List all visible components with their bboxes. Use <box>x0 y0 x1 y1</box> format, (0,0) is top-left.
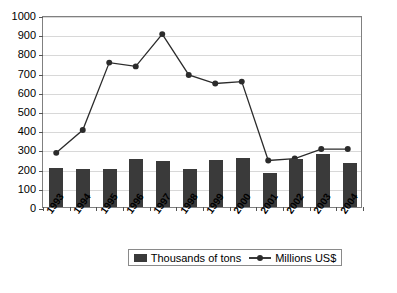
legend-label-usd: Millions US$ <box>275 252 336 264</box>
line-data-point <box>265 157 271 163</box>
line-data-point <box>159 31 165 37</box>
legend-label-tons: Thousands of tons <box>151 252 242 264</box>
line-data-point <box>133 63 139 69</box>
line-data-point <box>186 72 192 78</box>
legend-entry-usd: Millions US$ <box>249 252 336 264</box>
legend-entry-tons: Thousands of tons <box>134 252 242 264</box>
line-data-point <box>239 79 245 85</box>
line-series-overlay <box>43 17 361 207</box>
y-axis-tick-label: 500 <box>18 107 36 118</box>
y-axis-tick-label: 900 <box>18 30 36 41</box>
line-marker-swatch-icon <box>249 254 271 262</box>
line-data-point <box>106 60 112 66</box>
line-data-point <box>318 146 324 152</box>
chart-container: 10009008007006005004003002001000 1993199… <box>0 0 397 293</box>
y-axis-tick-label: 100 <box>18 183 36 194</box>
y-axis-tick-label: 0 <box>30 203 36 214</box>
y-axis-tick-label: 800 <box>18 49 36 60</box>
line-data-point <box>212 81 218 87</box>
bar-swatch-icon <box>134 254 147 262</box>
line-data-point <box>345 146 351 152</box>
y-axis-tick-label: 200 <box>18 164 36 175</box>
y-axis-labels: 10009008007006005004003002001000 <box>0 16 38 208</box>
chart-legend: Thousands of tons Millions US$ <box>128 249 342 266</box>
plot-area <box>43 17 361 207</box>
line-data-point <box>53 150 59 156</box>
y-axis-tick-label: 600 <box>18 87 36 98</box>
y-axis-tick-label: 700 <box>18 68 36 79</box>
y-axis-tick-label: 1000 <box>12 11 36 22</box>
x-axis-tick <box>363 207 364 211</box>
line-path <box>56 34 348 160</box>
x-axis-labels: 1993199419951996199719981999200020012002… <box>42 210 362 250</box>
y-axis-tick-label: 300 <box>18 145 36 156</box>
plot-frame <box>42 16 362 208</box>
line-data-point <box>80 127 86 133</box>
y-axis-tick-label: 400 <box>18 126 36 137</box>
